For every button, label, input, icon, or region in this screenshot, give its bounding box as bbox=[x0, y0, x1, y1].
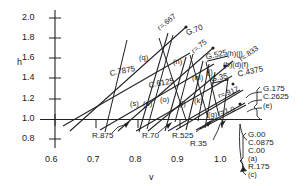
annotation-point-bdf: (b)(d)(f) bbox=[223, 61, 248, 69]
annotation-r-tick-0875: R.875 bbox=[92, 132, 113, 140]
x-axis-title: v bbox=[149, 173, 154, 182]
y-tick-label-1-8: 1.8 bbox=[22, 33, 35, 42]
chart-canvas: h v 2.0 1.8 1.6 1.4 1.2 1.0 0.8 0.6 0.7 … bbox=[0, 0, 307, 186]
x-tick-label-0-9: 0.9 bbox=[171, 155, 184, 164]
annotation-r-tick-070: R.70 bbox=[142, 132, 159, 140]
annotation-point-i: (i) bbox=[179, 100, 186, 108]
annotation-c-02625: C.2625 bbox=[263, 93, 289, 101]
annotation-point-c: (c) bbox=[248, 171, 257, 179]
y-tick-label-1-0: 1.0 bbox=[22, 114, 35, 123]
g-line-070-a bbox=[105, 40, 127, 132]
annotation-point-s: (s) bbox=[130, 100, 139, 108]
annotation-point-g: (g) bbox=[208, 111, 217, 119]
annotation-point-n: (n) bbox=[173, 58, 182, 66]
x-tick-label-0-7: 0.7 bbox=[87, 155, 100, 164]
annotation-point-o: (o) bbox=[160, 96, 169, 104]
y-tick-label-1-2: 1.2 bbox=[22, 94, 35, 103]
annotation-point-k: (k) bbox=[194, 97, 203, 105]
x-tick-label-0-8: 0.8 bbox=[129, 155, 142, 164]
x-tick-label-0-6: 0.6 bbox=[45, 155, 58, 164]
annotation-point-e: (e) bbox=[263, 102, 272, 110]
annotation-point-q: (q) bbox=[139, 54, 148, 62]
y-tick-label-0-8: 0.8 bbox=[22, 134, 35, 143]
annotation-point-a: (a) bbox=[248, 155, 257, 163]
y-tick-label-1-4: 1.4 bbox=[22, 73, 35, 82]
annotation-point-j: (j) bbox=[206, 68, 213, 76]
x-tick-label-1-0: 1.0 bbox=[214, 155, 227, 164]
y-tick-label-1-6: 1.6 bbox=[22, 53, 35, 62]
annotation-point-p: (p) bbox=[143, 100, 152, 108]
y-tick-label-2-0: 2.0 bbox=[22, 13, 35, 22]
annotation-point-m: (m) bbox=[192, 74, 203, 82]
annotation-r-tick-035: R.35 bbox=[190, 140, 207, 148]
annotation-point-hj: (h)(j) bbox=[227, 50, 243, 58]
axis-lines bbox=[40, 10, 262, 148]
